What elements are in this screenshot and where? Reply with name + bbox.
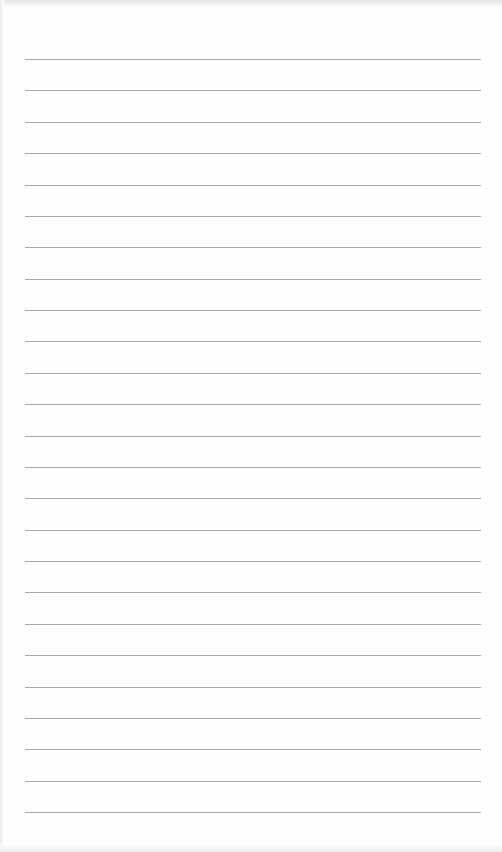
ruled-line <box>25 185 481 186</box>
ruled-line <box>25 749 481 750</box>
ruled-line <box>25 436 481 437</box>
ruled-line <box>25 561 481 562</box>
ruled-line <box>25 718 481 719</box>
ruled-line <box>25 279 481 280</box>
ruled-line <box>25 153 481 154</box>
top-edge-shadow <box>0 0 502 8</box>
ruled-line <box>25 216 481 217</box>
ruled-line <box>25 247 481 248</box>
lined-paper-page <box>0 0 502 852</box>
ruled-line <box>25 781 481 782</box>
ruled-line <box>25 530 481 531</box>
bottom-edge-shadow <box>0 844 502 852</box>
ruled-line <box>25 59 481 60</box>
ruled-line <box>25 592 481 593</box>
ruled-line <box>25 467 481 468</box>
ruled-line <box>25 812 481 813</box>
ruled-line <box>25 687 481 688</box>
ruled-line <box>25 373 481 374</box>
left-edge-shadow <box>0 0 4 852</box>
ruled-line <box>25 404 481 405</box>
ruled-line <box>25 624 481 625</box>
ruled-line <box>25 498 481 499</box>
ruled-line <box>25 310 481 311</box>
ruled-line <box>25 90 481 91</box>
ruled-line <box>25 341 481 342</box>
ruled-line <box>25 655 481 656</box>
ruled-line <box>25 122 481 123</box>
